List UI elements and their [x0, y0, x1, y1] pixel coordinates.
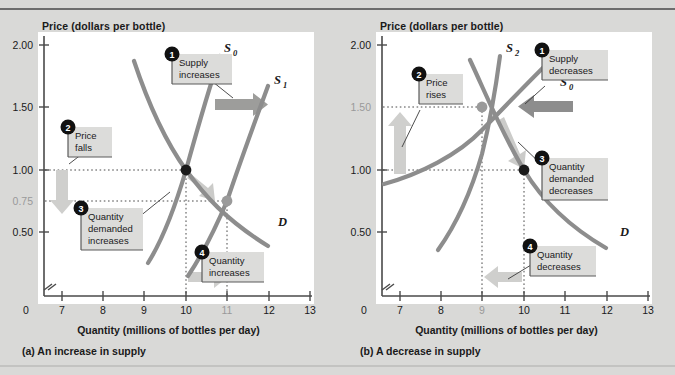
equilibrium-point-original: [519, 165, 530, 176]
svg-text:increases: increases: [179, 69, 220, 80]
svg-text:decreases: decreases: [549, 65, 593, 76]
svg-text:Supply: Supply: [549, 53, 578, 64]
y-tick-2-00: 2.00: [351, 39, 372, 51]
svg-text:rises: rises: [426, 89, 446, 100]
svg-text:4: 4: [527, 242, 532, 252]
svg-text:Quantity: Quantity: [537, 249, 573, 260]
svg-text:1: 1: [283, 80, 287, 90]
equilibrium-point-original: [181, 165, 192, 176]
y-tick-0-75: 0.75: [13, 195, 34, 207]
x-tick-9: 9: [141, 304, 147, 316]
svg-text:2: 2: [416, 70, 421, 80]
svg-text:Quantity: Quantity: [88, 211, 124, 222]
svg-text:1: 1: [169, 50, 174, 60]
curve-label-d: D: [277, 215, 287, 229]
panel-a-plot: 2.00 1.50 1.00 0.75 0.50 0 7 8 9 10 11 1…: [0, 14, 337, 319]
x-tick-13: 13: [304, 304, 316, 316]
panel-a-caption: (a) An increase in supply: [22, 345, 146, 357]
curve-label-d: D: [619, 225, 629, 239]
svg-text:S: S: [506, 41, 513, 55]
svg-text:2: 2: [65, 123, 70, 133]
svg-text:demanded: demanded: [549, 173, 594, 184]
svg-text:S: S: [274, 73, 281, 87]
svg-text:3: 3: [78, 204, 83, 214]
x-tick-0: 0: [361, 304, 367, 316]
svg-text:D: D: [619, 225, 629, 239]
svg-text:3: 3: [539, 154, 544, 164]
x-tick-11: 11: [222, 304, 233, 316]
equilibrium-point-new: [222, 196, 233, 207]
y-tick-1-00: 1.00: [13, 164, 34, 176]
svg-text:falls: falls: [75, 142, 92, 153]
svg-text:S: S: [224, 41, 231, 55]
x-tick-8: 8: [100, 304, 106, 316]
x-tick-8: 8: [438, 304, 444, 316]
svg-text:increases: increases: [209, 267, 250, 278]
y-tick-2-00: 2.00: [13, 39, 34, 51]
x-tick-11: 11: [560, 304, 571, 316]
svg-text:4: 4: [199, 248, 204, 258]
panel-b-caption: (b) A decrease in supply: [360, 345, 481, 357]
supply-shift-figure: Price (dollars per bottle) 2.00 1.50 1.0…: [0, 0, 675, 375]
x-tick-0: 0: [23, 304, 29, 316]
y-tick-1-00: 1.00: [351, 164, 372, 176]
svg-text:Price: Price: [426, 77, 448, 88]
x-tick-13: 13: [642, 304, 654, 316]
y-tick-1-50: 1.50: [351, 101, 372, 113]
svg-text:Supply: Supply: [179, 57, 208, 68]
x-tick-12: 12: [601, 304, 613, 316]
x-tick-10: 10: [518, 304, 530, 316]
svg-text:1: 1: [539, 46, 544, 56]
panel-a: Price (dollars per bottle) 2.00 1.50 1.0…: [0, 14, 337, 369]
y-tick-0-50: 0.50: [351, 226, 372, 238]
svg-text:demanded: demanded: [88, 223, 133, 234]
y-tick-1-50: 1.50: [13, 101, 34, 113]
svg-text:increases: increases: [88, 235, 129, 246]
svg-text:Quantity: Quantity: [209, 255, 245, 266]
equilibrium-point-new: [477, 102, 488, 113]
svg-text:D: D: [277, 215, 287, 229]
x-tick-7: 7: [397, 304, 403, 316]
svg-text:decreases: decreases: [537, 261, 581, 272]
panel-b-x-axis-title: Quantity (millions of bottles per day): [338, 324, 675, 336]
x-tick-9: 9: [479, 304, 485, 316]
panel-b-plot: 2.00 1.50 1.00 0.50 0 7 8 9 10 11 12 13: [338, 14, 675, 319]
svg-text:Price: Price: [75, 130, 97, 141]
x-tick-12: 12: [263, 304, 275, 316]
x-tick-7: 7: [59, 304, 65, 316]
svg-text:Quantity: Quantity: [549, 161, 585, 172]
y-tick-0-50: 0.50: [13, 226, 34, 238]
panel-b: Price (dollars per bottle) 2.00 1.50 1.0…: [338, 14, 675, 369]
top-divider: [0, 8, 675, 10]
x-tick-10: 10: [180, 304, 192, 316]
panel-a-x-axis-title: Quantity (millions of bottles per day): [0, 324, 337, 336]
svg-text:2: 2: [514, 48, 520, 58]
svg-text:decreases: decreases: [549, 185, 593, 196]
